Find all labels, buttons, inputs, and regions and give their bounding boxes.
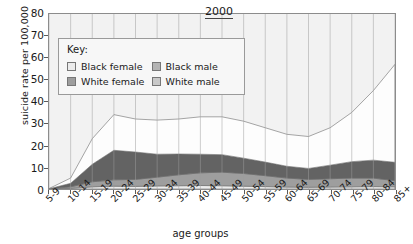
y-tick-label: 40 — [22, 96, 44, 107]
legend-item-black-male[interactable]: Black male — [152, 62, 237, 72]
x-tick-mark — [396, 190, 397, 194]
x-tick-mark — [287, 190, 288, 194]
legend-swatch-icon — [152, 77, 161, 86]
legend-swatch-icon — [152, 62, 161, 71]
x-tick-mark — [70, 190, 71, 194]
x-tick-mark — [92, 190, 93, 194]
y-axis-ticks: 80 70 60 50 40 30 20 10 0 — [22, 0, 44, 244]
y-tick-label: 50 — [22, 74, 44, 85]
x-tick-mark — [353, 190, 354, 194]
x-tick-mark — [179, 190, 180, 194]
legend-item-black-female[interactable]: Black female — [67, 62, 152, 72]
y-tick-label: 10 — [22, 163, 44, 174]
legend-label: Black female — [81, 62, 142, 72]
x-axis-title: age groups — [0, 228, 401, 239]
y-tick-label: 0 — [22, 185, 44, 196]
x-tick-mark — [266, 190, 267, 194]
y-tick-label: 20 — [22, 141, 44, 152]
y-tick-label: 30 — [22, 118, 44, 129]
legend-swatch-icon — [67, 62, 76, 71]
y-tick-label: 80 — [22, 8, 44, 19]
legend-label: Black male — [166, 62, 218, 72]
x-tick-mark — [244, 190, 245, 194]
legend-row: White female White male — [67, 74, 236, 89]
x-tick-mark — [135, 190, 136, 194]
chart-legend: Key: Black female Black male White femal… — [58, 38, 245, 95]
legend-row: Black female Black male — [67, 59, 236, 74]
x-tick-mark — [157, 190, 158, 194]
x-tick-mark — [309, 190, 310, 194]
x-tick-mark — [222, 190, 223, 194]
x-tick-mark — [374, 190, 375, 194]
x-tick-mark — [113, 190, 114, 194]
x-tick-mark — [331, 190, 332, 194]
x-tick-mark — [48, 190, 49, 194]
x-tick-mark — [200, 190, 201, 194]
legend-item-white-male[interactable]: White male — [152, 77, 237, 87]
legend-label: White male — [166, 77, 220, 87]
legend-swatch-icon — [67, 77, 76, 86]
chart-title: 2000 — [205, 6, 233, 19]
legend-item-white-female[interactable]: White female — [67, 77, 152, 87]
y-tick-label: 60 — [22, 52, 44, 63]
legend-title: Key: — [67, 44, 236, 55]
legend-label: White female — [81, 77, 144, 87]
y-tick-label: 70 — [22, 30, 44, 41]
